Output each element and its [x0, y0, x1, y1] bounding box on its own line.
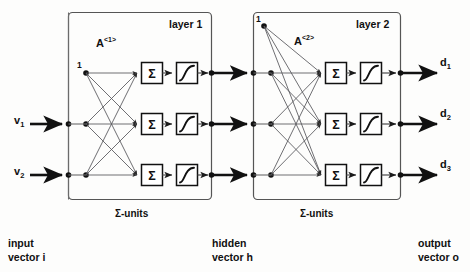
- input-label-v1-subscript: 1: [20, 120, 24, 129]
- output-label-d3-subscript: 3: [447, 164, 451, 173]
- layer-1-activation-1: [177, 63, 198, 84]
- layer-2-source-nodes: [251, 23, 274, 178]
- output-label-d2-symbol: d: [440, 107, 447, 119]
- layer-1-activation-3: [177, 165, 198, 186]
- caption-hidden-line1: hidden: [212, 237, 246, 249]
- figure-canvas: Σ Σ Σ: [0, 0, 470, 272]
- layer-1-sigma-unit-1: Σ: [142, 63, 163, 84]
- caption-hidden-line2: vector h: [212, 252, 253, 263]
- layer-1-sigma-unit-2: Σ: [142, 114, 163, 135]
- layer-2-input-stubs: [254, 73, 272, 175]
- hidden-vector-bus: [212, 73, 248, 175]
- svg-text:Σ: Σ: [148, 118, 156, 132]
- svg-text:Σ: Σ: [332, 118, 340, 132]
- svg-text:Σ: Σ: [148, 169, 156, 183]
- caption-hidden: hiddenvector h: [212, 238, 253, 262]
- layer-1-bias-label: 1: [77, 61, 82, 70]
- layer-2-matrix-superscript: <2>: [302, 34, 314, 41]
- layer-2-output-links: [382, 73, 397, 175]
- caption-output-line2: vector o: [418, 252, 459, 263]
- layer-1-matrix-label: A<1>: [96, 36, 116, 49]
- layer-1-internal-links: [163, 73, 173, 175]
- layer-1-matrix-symbol: A: [96, 37, 104, 49]
- input-label-v2-subscript: 2: [20, 171, 24, 180]
- output-label-d3-symbol: d: [440, 158, 447, 170]
- caption-output-line1: output: [418, 237, 451, 249]
- layer-2-sigma-unit-1: Σ: [326, 63, 347, 84]
- layer-1-title: layer 1: [169, 19, 202, 30]
- output-label-d3: d3: [440, 159, 451, 170]
- caption-input-line2: vector i: [8, 252, 45, 263]
- output-label-d2-subscript: 2: [447, 113, 451, 122]
- layer-2-matrix-symbol: A: [294, 35, 302, 47]
- layer-2-matrix-label: A<2>: [294, 34, 314, 47]
- layer-2-weight-connections: [264, 26, 321, 175]
- layer-1-units-caption: Σ-units: [115, 209, 148, 219]
- layer-2-activation-2: [361, 114, 382, 135]
- caption-input: inputvector i: [8, 238, 45, 262]
- layer-2-internal-links: [347, 73, 357, 175]
- layer-1-sigma-unit-3: Σ: [142, 165, 163, 186]
- layer-2-units-caption: Σ-units: [300, 209, 333, 219]
- layer-1-weight-connections: [86, 73, 137, 175]
- output-arrows: [401, 73, 438, 175]
- layer-2-title: layer 2: [356, 19, 389, 30]
- output-label-d1-subscript: 1: [447, 62, 451, 71]
- layer-1-input-stubs: [69, 124, 87, 175]
- svg-text:Σ: Σ: [332, 67, 340, 81]
- input-label-v2: v2: [14, 166, 24, 177]
- layer-2-sigma-unit-2: Σ: [326, 114, 347, 135]
- layer-1-output-links: [198, 73, 209, 175]
- caption-input-line1: input: [8, 237, 34, 249]
- layer-2-activation-1: [361, 63, 382, 84]
- caption-output: outputvector o: [418, 238, 459, 262]
- input-label-v1: v1: [14, 115, 24, 126]
- layer-2-activation-3: [361, 165, 382, 186]
- layer-2-bias-label: 1: [256, 15, 261, 24]
- output-label-d1-symbol: d: [440, 56, 447, 68]
- output-label-d2: d2: [440, 108, 451, 119]
- network-diagram: Σ Σ Σ: [0, 0, 470, 272]
- svg-text:Σ: Σ: [332, 169, 340, 183]
- output-label-d1: d1: [440, 57, 451, 68]
- layer-1-matrix-superscript: <1>: [104, 36, 116, 43]
- input-arrows: [30, 124, 62, 175]
- layer-1-activation-2: [177, 114, 198, 135]
- svg-text:Σ: Σ: [148, 67, 156, 81]
- layer-2-sigma-unit-3: Σ: [326, 165, 347, 186]
